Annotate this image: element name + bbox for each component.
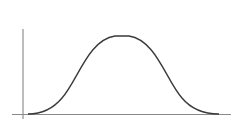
bell-curve (28, 36, 219, 114)
bell-curve-diagram (0, 0, 241, 130)
